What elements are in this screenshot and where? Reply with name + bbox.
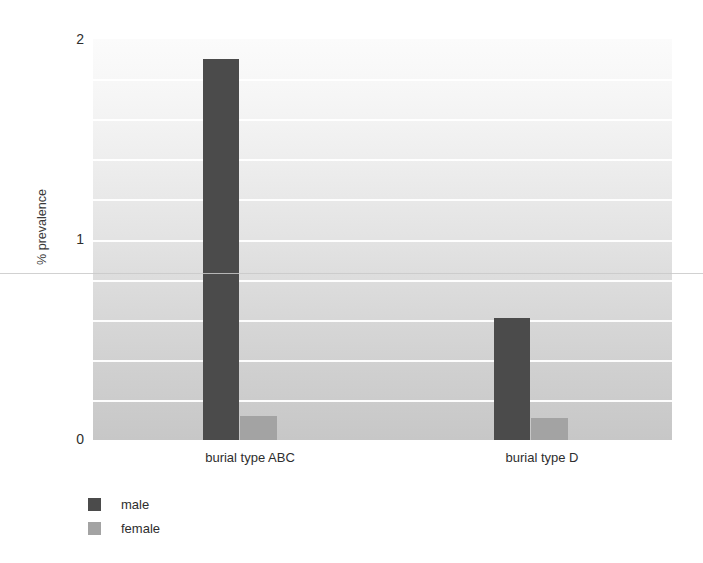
gridline-1_4	[93, 159, 672, 161]
gridline-0_4	[93, 360, 672, 362]
y-tick-label-2: 2	[48, 32, 84, 46]
gridline-0_8	[93, 280, 672, 282]
legend-swatch-male-icon	[88, 498, 101, 511]
gridline-1_8	[93, 79, 672, 81]
x-tick-label-burial-type-d: burial type D	[442, 450, 642, 465]
gridline-0_2	[93, 400, 672, 402]
bar-female-burial-type-d	[531, 418, 568, 440]
y-tick-label-1: 1	[48, 232, 84, 246]
plot-area	[93, 39, 672, 440]
gridline-0_6	[93, 320, 672, 322]
bar-male-burial-type-abc	[203, 59, 239, 440]
bar-male-burial-type-d	[494, 318, 530, 440]
y-tick-label-0: 0	[48, 432, 84, 446]
legend-swatch-female-icon	[88, 522, 101, 535]
legend-item-male: male	[88, 492, 160, 516]
gridline-1_0	[93, 240, 672, 242]
gridline-1_6	[93, 119, 672, 121]
bar-female-burial-type-abc	[240, 416, 277, 440]
legend-label-male: male	[121, 497, 149, 512]
bar-chart-figure: % prevalence 2 1 0 burial type ABC buria…	[0, 0, 703, 563]
legend-label-female: female	[121, 521, 160, 536]
scan-artifact-line	[0, 273, 703, 274]
x-tick-label-burial-type-abc: burial type ABC	[150, 450, 350, 465]
gridline-1_2	[93, 199, 672, 201]
legend: male female	[88, 492, 160, 540]
legend-item-female: female	[88, 516, 160, 540]
y-axis-tick-labels: 2 1 0	[46, 0, 84, 563]
